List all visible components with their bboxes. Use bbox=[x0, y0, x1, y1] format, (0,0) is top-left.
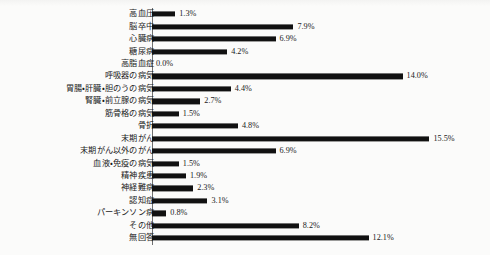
value-label: 6.9% bbox=[280, 35, 297, 43]
value-label: 2.7% bbox=[204, 97, 221, 105]
chart-row: 脳卒中7.9% bbox=[0, 20, 490, 32]
bar bbox=[152, 223, 299, 228]
chart-row: パーキンソン病0.8% bbox=[0, 207, 490, 219]
horizontal-bar-chart: 高血圧1.3%脳卒中7.9%心臓病6.9%糖尿病4.2%高脂血症0.0%呼吸器の… bbox=[0, 0, 490, 255]
bar bbox=[152, 136, 429, 141]
value-label: 4.2% bbox=[231, 47, 248, 55]
value-label: 1.5% bbox=[183, 110, 200, 118]
chart-row: 精神疾患1.9% bbox=[0, 170, 490, 182]
chart-row: 呼吸器の病気14.0% bbox=[0, 70, 490, 82]
bar bbox=[152, 198, 207, 203]
category-label: 血液・免疫の病気 bbox=[93, 159, 154, 167]
chart-row: 糖尿病4.2% bbox=[0, 45, 490, 57]
value-label: 4.8% bbox=[242, 122, 259, 130]
category-label: 呼吸器の病気 bbox=[105, 72, 154, 80]
category-label: 腎臓・前立腺の病気 bbox=[85, 97, 154, 105]
bar bbox=[152, 99, 200, 104]
value-label: 1.3% bbox=[179, 10, 196, 18]
chart-row: 末期がん以外のがん6.9% bbox=[0, 145, 490, 157]
chart-row: 筋骨格の病気1.5% bbox=[0, 108, 490, 120]
bar bbox=[152, 111, 179, 116]
value-label: 2.3% bbox=[197, 184, 214, 192]
bar bbox=[152, 186, 193, 191]
bar bbox=[152, 24, 293, 29]
bar bbox=[152, 49, 227, 54]
category-label: 末期がん以外のがん bbox=[80, 147, 154, 155]
chart-row: 腎臓・前立腺の病気2.7% bbox=[0, 95, 490, 107]
bar bbox=[152, 149, 276, 154]
category-label: 胃腸・肝臓・胆のうの病気 bbox=[66, 85, 154, 93]
category-label: その他 bbox=[129, 222, 154, 230]
plot-area: 高血圧1.3%脳卒中7.9%心臓病6.9%糖尿病4.2%高脂血症0.0%呼吸器の… bbox=[0, 8, 490, 248]
bar bbox=[152, 161, 179, 166]
scan-edge-artifact bbox=[0, 0, 490, 6]
value-label: 7.9% bbox=[297, 23, 314, 31]
category-label: 無回答 bbox=[129, 234, 154, 242]
value-label: 15.5% bbox=[433, 135, 454, 143]
category-label: 糖尿病 bbox=[129, 47, 154, 55]
bar bbox=[152, 86, 231, 91]
value-label: 14.0% bbox=[407, 72, 428, 80]
category-label: 神経難病 bbox=[121, 184, 154, 192]
bar bbox=[152, 74, 403, 79]
chart-row: 認知症3.1% bbox=[0, 195, 490, 207]
chart-row: 血液・免疫の病気1.5% bbox=[0, 157, 490, 169]
bar bbox=[152, 236, 369, 241]
category-label: 精神疾患 bbox=[121, 172, 154, 180]
chart-row: 胃腸・肝臓・胆のうの病気4.4% bbox=[0, 83, 490, 95]
chart-row: 心臓病6.9% bbox=[0, 33, 490, 45]
chart-row: その他8.2% bbox=[0, 220, 490, 232]
chart-row: 高脂血症0.0% bbox=[0, 58, 490, 70]
bar bbox=[152, 211, 166, 216]
chart-row: 骨折4.8% bbox=[0, 120, 490, 132]
value-label: 8.2% bbox=[303, 222, 320, 230]
chart-row: 高血圧1.3% bbox=[0, 8, 490, 20]
chart-row: 無回答12.1% bbox=[0, 232, 490, 244]
bar bbox=[152, 173, 186, 178]
value-label: 0.8% bbox=[170, 209, 187, 217]
value-label: 3.1% bbox=[211, 197, 228, 205]
bar bbox=[152, 124, 238, 129]
chart-row: 神経難病2.3% bbox=[0, 182, 490, 194]
category-label: 認知症 bbox=[129, 197, 154, 205]
category-label: 脳卒中 bbox=[129, 23, 154, 31]
category-label: 心臓病 bbox=[129, 35, 154, 43]
bar bbox=[152, 12, 175, 17]
bar bbox=[152, 36, 276, 41]
category-label: 高脂血症 bbox=[121, 60, 154, 68]
category-label: 末期がん bbox=[121, 135, 154, 143]
value-label: 12.1% bbox=[373, 234, 394, 242]
value-label: 0.0% bbox=[156, 60, 173, 68]
category-label: パーキンソン病 bbox=[97, 209, 154, 217]
value-label: 4.4% bbox=[235, 85, 252, 93]
category-label: 高血圧 bbox=[129, 10, 154, 18]
value-label: 6.9% bbox=[280, 147, 297, 155]
category-label: 筋骨格の病気 bbox=[105, 110, 154, 118]
chart-row: 末期がん15.5% bbox=[0, 133, 490, 145]
value-label: 1.5% bbox=[183, 159, 200, 167]
value-label: 1.9% bbox=[190, 172, 207, 180]
